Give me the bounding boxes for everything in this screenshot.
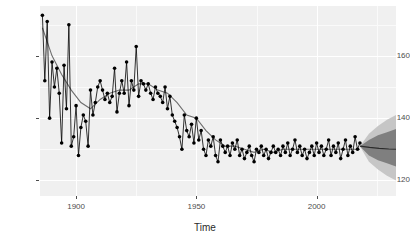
data-point (358, 141, 362, 145)
data-point (139, 79, 143, 83)
data-point (276, 147, 280, 151)
series-layer (40, 6, 396, 196)
data-point (288, 154, 292, 158)
data-point (158, 95, 162, 99)
data-point (118, 91, 122, 95)
data-point (293, 138, 297, 142)
data-point (125, 60, 129, 64)
data-point (180, 147, 184, 151)
data-point (154, 85, 158, 89)
data-point (207, 138, 211, 142)
data-point (183, 113, 187, 117)
data-point (235, 138, 239, 142)
data-point (96, 85, 100, 89)
data-point (72, 135, 76, 139)
data-point (298, 144, 302, 148)
data-point (53, 85, 57, 89)
data-point (43, 79, 47, 83)
data-point (60, 141, 64, 145)
data-point (173, 119, 177, 123)
data-point (339, 157, 343, 161)
data-point (223, 151, 227, 155)
data-point (272, 144, 276, 148)
data-point (101, 88, 105, 92)
data-point (250, 154, 254, 158)
data-point (168, 95, 172, 99)
data-point (219, 138, 223, 142)
data-point (240, 147, 244, 151)
data-point (233, 147, 237, 151)
y-tick-mark (36, 56, 39, 57)
data-point (202, 147, 206, 151)
data-point (146, 82, 150, 86)
data-point (320, 144, 324, 148)
data-point (315, 141, 319, 145)
data-point (110, 95, 114, 99)
plot-panel (40, 6, 396, 196)
data-point (175, 126, 179, 130)
data-point (245, 151, 249, 155)
data-point (336, 141, 340, 145)
data-point (67, 23, 71, 27)
data-point (94, 101, 98, 105)
data-point (300, 154, 304, 158)
data-point (305, 157, 309, 161)
data-point (190, 123, 194, 127)
data-point (243, 157, 247, 161)
x-tick-mark (317, 196, 318, 199)
data-point (349, 144, 353, 148)
data-point (310, 144, 314, 148)
data-point (69, 144, 73, 148)
data-point (115, 110, 119, 114)
y-tick-label-120: 120 (376, 176, 410, 184)
data-point (247, 144, 251, 148)
data-point (82, 113, 86, 117)
data-point (171, 113, 175, 117)
data-point (274, 151, 278, 155)
data-point (122, 91, 126, 95)
y-tick-label-140: 140 (376, 114, 410, 122)
data-point (137, 95, 141, 99)
data-point (86, 144, 90, 148)
data-point (281, 144, 285, 148)
y-tick-mark (36, 180, 39, 181)
data-point (346, 154, 350, 158)
data-point (226, 144, 230, 148)
data-point (312, 154, 316, 158)
y-tick-label-160: 160 (376, 52, 410, 60)
data-point (228, 154, 232, 158)
data-point (341, 147, 345, 151)
x-tick-mark (76, 196, 77, 199)
data-point (84, 119, 88, 123)
data-point (199, 129, 203, 133)
data-point (303, 147, 307, 151)
data-point (344, 138, 348, 142)
data-point (262, 154, 266, 158)
data-point (204, 154, 208, 158)
data-point (351, 151, 355, 155)
data-point (356, 147, 360, 151)
data-point (327, 138, 331, 142)
data-point (269, 151, 273, 155)
data-point (216, 160, 220, 164)
x-tick-label-1950: 1950 (176, 203, 216, 211)
y-tick-mark (36, 118, 39, 119)
data-point (231, 141, 235, 145)
data-point (77, 154, 81, 158)
data-point (211, 135, 215, 139)
x-axis-title: Time (0, 222, 410, 233)
x-tick-label-2000: 2000 (297, 203, 337, 211)
data-point (296, 151, 300, 155)
data-point (279, 154, 283, 158)
data-point (151, 98, 155, 102)
data-point (264, 147, 268, 151)
data-point (238, 154, 242, 158)
data-point (57, 91, 61, 95)
data-point (192, 141, 196, 145)
data-point (45, 20, 49, 24)
data-point (334, 151, 338, 155)
data-point (257, 151, 261, 155)
data-point (161, 101, 165, 105)
data-point (267, 157, 271, 161)
data-point (149, 91, 153, 95)
